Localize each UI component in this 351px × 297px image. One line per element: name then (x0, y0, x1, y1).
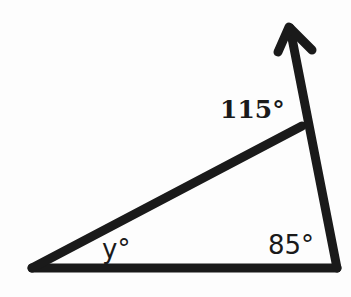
exterior-angle-label: 115° (220, 97, 285, 122)
triangle-diagram: 115° y° 85° (0, 0, 351, 297)
angle-85-label: 85° (268, 232, 314, 258)
angle-y-label: y° (102, 236, 130, 262)
hypotenuse-line (32, 126, 302, 268)
